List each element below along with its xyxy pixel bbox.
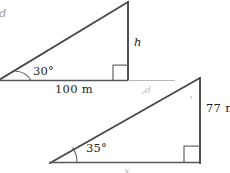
triangle-two-vertical-side-label: 77 m — [206, 103, 230, 115]
triangle-one-hypotenuse-label: d — [0, 8, 6, 20]
triangle-one-vertical-side-label: h — [134, 37, 141, 49]
triangle-one-angle-arc — [15, 71, 31, 80]
triangle-two-angle-label: 35° — [86, 143, 107, 155]
triangle-one-angle-label: 30° — [33, 66, 54, 78]
triangle-two-hypotenuse-label: d — [145, 86, 151, 95]
geometry-figure: d h 30° 100 m d 77 m 35° x — [0, 0, 230, 173]
triangle-two-right-angle-marker — [184, 146, 200, 162]
triangle-one-hypotenuse — [0, 2, 128, 89]
triangle-two-base-label: x — [124, 166, 131, 173]
triangle-one-base-label: 100 m — [55, 84, 93, 96]
figure-canvas — [0, 0, 230, 173]
triangle-one-right-angle-marker — [113, 65, 128, 80]
triangle-one-shape — [0, 2, 175, 89]
